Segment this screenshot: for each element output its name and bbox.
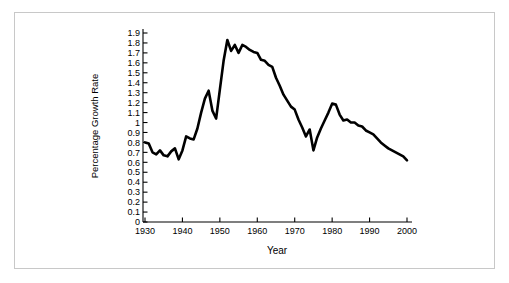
x-tick-label: 1970 bbox=[285, 226, 305, 236]
y-tick-label: 0.3 bbox=[127, 187, 140, 197]
x-axis: 19301940195019601970198019902000 bbox=[135, 218, 417, 237]
y-tick-label: 0.6 bbox=[127, 158, 140, 168]
y-tick-label: 1.4 bbox=[127, 78, 140, 88]
y-tick-label: 0.8 bbox=[127, 138, 140, 148]
series-line-growth-rate bbox=[145, 40, 407, 160]
y-axis: 00.10.20.30.40.50.60.70.80.911.11.21.31.… bbox=[127, 28, 147, 227]
growth-rate-line-chart: 00.10.20.30.40.50.60.70.80.911.11.21.31.… bbox=[0, 0, 509, 283]
y-tick-label: 0.7 bbox=[127, 148, 140, 158]
y-tick-label: 0.9 bbox=[127, 128, 140, 138]
y-tick-label: 0.4 bbox=[127, 177, 140, 187]
y-tick-label: 0.5 bbox=[127, 167, 140, 177]
x-tick-label: 1960 bbox=[247, 226, 267, 236]
y-tick-label: 1 bbox=[135, 118, 140, 128]
x-tick-label: 1980 bbox=[322, 226, 342, 236]
x-tick-label: 1990 bbox=[360, 226, 380, 236]
y-tick-label: 0.2 bbox=[127, 197, 140, 207]
y-tick-label: 1.7 bbox=[127, 48, 140, 58]
data-series-group bbox=[145, 40, 407, 160]
y-tick-label: 1.9 bbox=[127, 28, 140, 38]
y-tick-label: 1.1 bbox=[127, 108, 140, 118]
chart-canvas: 00.10.20.30.40.50.60.70.80.911.11.21.31.… bbox=[0, 0, 509, 283]
y-tick-label: 1.5 bbox=[127, 68, 140, 78]
y-tick-label: 1.8 bbox=[127, 38, 140, 48]
x-tick-label: 1940 bbox=[172, 226, 192, 236]
x-tick-label: 1950 bbox=[210, 226, 230, 236]
x-tick-label: 2000 bbox=[397, 226, 417, 236]
x-tick-label: 1930 bbox=[135, 226, 155, 236]
y-tick-label: 1.3 bbox=[127, 88, 140, 98]
y-tick-label: 0.1 bbox=[127, 207, 140, 217]
x-axis-title: Year bbox=[267, 245, 288, 256]
y-tick-label: 1.6 bbox=[127, 58, 140, 68]
screenshot-root: 00.10.20.30.40.50.60.70.80.911.11.21.31.… bbox=[0, 0, 509, 283]
y-tick-label: 1.2 bbox=[127, 98, 140, 108]
y-axis-title: Percentage Growth Rate bbox=[89, 74, 100, 179]
